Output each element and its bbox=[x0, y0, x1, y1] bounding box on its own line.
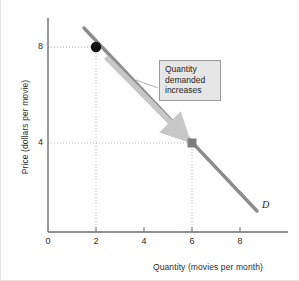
x-tick-label-0: 0 bbox=[41, 236, 55, 246]
callout-line-2: demanded bbox=[165, 75, 216, 86]
x-tick-label-2: 2 bbox=[89, 236, 103, 246]
x-tick-label-8: 8 bbox=[233, 236, 247, 246]
x-tick-label-4: 4 bbox=[137, 236, 151, 246]
callout-line-1: Quantity bbox=[165, 64, 216, 75]
data-point-a bbox=[91, 42, 101, 52]
data-point-b bbox=[188, 139, 197, 148]
demand-curve-label: D bbox=[262, 199, 269, 210]
y-tick-label-8: 8 bbox=[29, 41, 43, 51]
y-axis-title: Price (dollars per movie) bbox=[20, 57, 30, 197]
demand-curve-figure: 8 4 0 2 4 6 8 Price (dollars per movie) … bbox=[0, 0, 299, 281]
x-tick-label-6: 6 bbox=[185, 236, 199, 246]
x-axis-title: Quantity (movies per month) bbox=[153, 262, 263, 272]
callout-box: Quantity demanded increases bbox=[159, 60, 221, 101]
callout-line-3: increases bbox=[165, 85, 216, 96]
y-tick-label-4: 4 bbox=[29, 137, 43, 147]
